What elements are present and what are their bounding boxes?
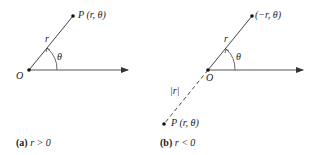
caption-tag: (a): [16, 137, 28, 148]
point-p: [162, 122, 166, 126]
angle-arc: [226, 49, 235, 70]
origin-point: [27, 68, 31, 72]
radius-line: [29, 16, 73, 70]
caption-tag: (b): [160, 137, 172, 148]
abs-radius-label: |r|: [170, 85, 179, 96]
caption-condition: r > 0: [30, 137, 51, 148]
origin-label: O: [206, 72, 213, 83]
panel-b-figure: [162, 14, 303, 126]
caption-a: (a) r > 0: [16, 137, 51, 148]
point-p: [71, 14, 75, 18]
radius-label: r: [45, 33, 49, 44]
angle-arrowhead: [225, 49, 229, 53]
angle-label: θ: [236, 51, 241, 62]
point-label: P (r, θ): [78, 9, 106, 20]
point-label: (−r, θ): [255, 9, 281, 20]
angle-arc: [47, 48, 57, 70]
caption-b: (b) r < 0: [160, 137, 195, 148]
reflected-radius-line: [164, 70, 208, 124]
caption-condition: r < 0: [175, 137, 196, 148]
radius-label: r: [224, 33, 228, 44]
origin-label: O: [16, 70, 23, 81]
radius-line: [208, 16, 252, 70]
panel-a-figure: [27, 14, 128, 72]
polar-diagram: [0, 0, 320, 155]
reflected-point-label: P (r, θ): [171, 117, 199, 128]
angle-arrowhead: [46, 48, 50, 52]
angle-label: θ: [57, 51, 62, 62]
point-neg-r: [250, 14, 254, 18]
